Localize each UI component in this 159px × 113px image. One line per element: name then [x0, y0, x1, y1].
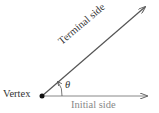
angle-theta-label: θ [65, 79, 70, 90]
vertex-label: Vertex [3, 88, 30, 99]
angle-arc [58, 82, 62, 96]
vertex-dot [40, 94, 45, 99]
initial-side-label: Initial side [71, 99, 116, 110]
